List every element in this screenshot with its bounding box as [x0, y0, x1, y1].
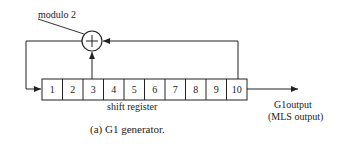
xor-adder-icon [82, 31, 102, 51]
register-cell-10: 10 [227, 79, 248, 100]
figure-caption: (a) G1 generator. [90, 124, 165, 135]
register-cell-5: 5 [124, 79, 145, 100]
tap-line-cell-10 [103, 41, 238, 79]
modulo-2-label: modulo 2 [38, 10, 76, 20]
shift-register-label: shift register [107, 102, 157, 112]
register-cell-9: 9 [206, 79, 227, 100]
register-cell-1: 1 [42, 79, 63, 100]
output-sublabel: (MLS output) [268, 112, 323, 122]
register-cell-8: 8 [186, 79, 207, 100]
register-cell-3: 3 [83, 79, 104, 100]
register-cell-6: 6 [145, 79, 166, 100]
output-label: G1output [274, 100, 312, 110]
register-cell-4: 4 [104, 79, 125, 100]
modulo-label-leader [38, 19, 84, 34]
register-cell-7: 7 [165, 79, 186, 100]
register-cell-2: 2 [63, 79, 84, 100]
g1-generator-diagram [0, 0, 341, 144]
